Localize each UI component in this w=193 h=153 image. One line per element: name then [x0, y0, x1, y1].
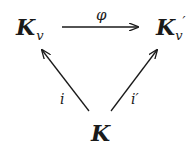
node-subscript: v	[175, 28, 182, 43]
node-K: K	[91, 122, 110, 144]
node-subscript: v	[36, 28, 43, 43]
node-prime: ′	[182, 14, 185, 29]
label-i-prime: i′	[131, 92, 139, 106]
node-base: K	[91, 120, 110, 146]
label-phi: φ	[96, 8, 107, 23]
node-K-v-prime: Kv′	[156, 16, 185, 38]
arrow-i	[42, 50, 89, 111]
label-i: i	[60, 92, 64, 106]
node-K-v: Kv	[16, 16, 43, 38]
node-base: K	[16, 14, 35, 40]
node-base: K	[156, 14, 175, 40]
